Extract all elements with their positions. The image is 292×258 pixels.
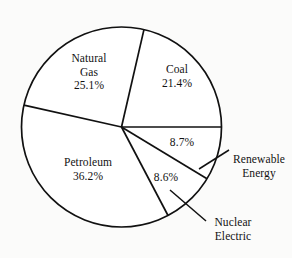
callout-label-nuclear-electric-line2: Electric: [205, 230, 261, 244]
callout-label-nuclear-electric-line1: Nuclear: [205, 216, 261, 230]
slice-label-petroleum: Petroleum 36.2%: [40, 156, 136, 183]
slice-label-natural-gas-line1: Natural: [53, 52, 125, 66]
slice-label-natural-gas: Natural Gas 25.1%: [53, 52, 125, 93]
slice-value-nuclear-electric: 8.6%: [144, 171, 188, 185]
slice-value-renewable-energy: 8.7%: [160, 136, 204, 150]
callout-label-renewable-energy-line2: Energy: [228, 167, 290, 181]
slice-value-coal: 21.4%: [148, 77, 206, 91]
callout-label-renewable-energy: Renewable Energy: [228, 153, 290, 180]
callout-label-nuclear-electric: Nuclear Electric: [205, 216, 261, 243]
callout-label-renewable-energy-line1: Renewable: [228, 153, 290, 167]
slice-value-natural-gas: 25.1%: [53, 79, 125, 93]
slice-label-natural-gas-line2: Gas: [53, 66, 125, 80]
slice-value-petroleum: 36.2%: [40, 170, 136, 184]
slice-label-petroleum-text: Petroleum: [40, 156, 136, 170]
pie-chart-figure: Natural Gas 25.1% Coal 21.4% Petroleum 3…: [0, 0, 292, 258]
slice-label-coal-text: Coal: [148, 63, 206, 77]
slice-label-coal: Coal 21.4%: [148, 63, 206, 90]
